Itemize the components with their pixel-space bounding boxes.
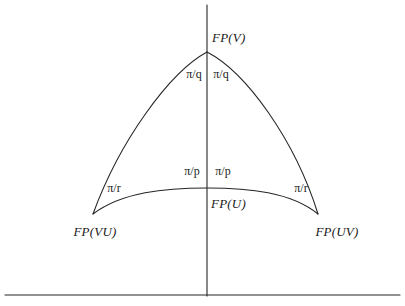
diagram-canvas: FP(V) π/q π/q π/p π/p FP(U) π/r π/r FP(V… <box>0 0 405 306</box>
label-angle-r-left: π/r <box>107 182 120 194</box>
diagram-svg <box>0 0 405 306</box>
label-fp-u: FP(U) <box>211 197 246 210</box>
label-angle-q-left: π/q <box>186 68 201 80</box>
label-angle-p-left: π/p <box>184 165 199 177</box>
arc-left-vertex-to-right-vertex <box>93 188 318 214</box>
label-fp-vu: FP(VU) <box>73 225 116 238</box>
label-fp-v: FP(V) <box>212 31 245 44</box>
label-angle-r-right: π/r <box>294 182 307 194</box>
label-fp-uv: FP(UV) <box>315 225 358 238</box>
label-angle-q-right: π/q <box>213 68 228 80</box>
label-angle-p-right: π/p <box>215 165 230 177</box>
